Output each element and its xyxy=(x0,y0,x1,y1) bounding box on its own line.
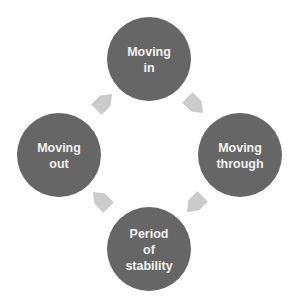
node-label-line: out xyxy=(49,157,69,171)
node-label-line: Period xyxy=(130,227,169,241)
node-moving-out: Moving out xyxy=(17,113,101,197)
arrow-up-left-icon xyxy=(89,188,114,213)
node-label-line: in xyxy=(143,61,154,75)
arrow-down-right-icon xyxy=(183,93,208,118)
node-label-line: stability xyxy=(125,259,172,273)
cycle-diagram: Moving in Moving through Period of stabi… xyxy=(0,0,294,305)
node-label-line: Moving xyxy=(127,45,171,59)
node-label-line: of xyxy=(143,243,156,257)
arrow-down-left-icon xyxy=(183,192,208,217)
node-circle xyxy=(17,113,101,197)
node-label-line: Moving xyxy=(37,141,81,155)
node-label-line: Moving xyxy=(218,141,262,155)
node-label-line: through xyxy=(216,157,263,171)
arrow-up-right-icon xyxy=(92,90,117,115)
node-circle xyxy=(198,113,282,197)
node-circle xyxy=(107,17,191,101)
node-moving-in: Moving in xyxy=(107,17,191,101)
node-moving-through: Moving through xyxy=(198,113,282,197)
node-period-of-stability: Period of stability xyxy=(107,207,191,291)
